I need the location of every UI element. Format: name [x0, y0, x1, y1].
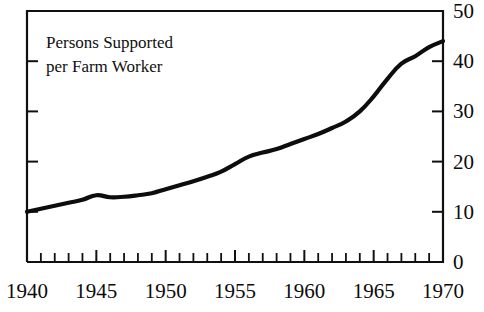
y-tick-label: 0 — [453, 250, 464, 274]
y-tick-label: 50 — [453, 0, 474, 23]
x-tick-label: 1940 — [6, 279, 48, 303]
x-tick-label: 1960 — [283, 279, 325, 303]
chart-title-line-2: per Farm Worker — [46, 57, 163, 76]
chart-title-line-1: Persons Supported — [46, 33, 174, 52]
y-tick-label: 10 — [453, 200, 474, 224]
x-axis-ticks — [27, 250, 443, 262]
chart-container: 1940194519501955196019651970 01020304050… — [0, 0, 484, 312]
y-axis-ticks-right — [432, 61, 443, 212]
y-tick-label: 30 — [453, 99, 474, 123]
x-tick-label: 1955 — [214, 279, 256, 303]
x-axis-tick-labels: 1940194519501955196019651970 — [6, 279, 464, 303]
x-tick-label: 1950 — [145, 279, 187, 303]
y-axis-ticks-left — [27, 61, 38, 212]
x-tick-label: 1970 — [422, 279, 464, 303]
line-chart: 1940194519501955196019651970 01020304050… — [0, 0, 484, 312]
y-tick-label: 20 — [453, 150, 474, 174]
x-tick-label: 1965 — [353, 279, 395, 303]
y-axis-tick-labels: 01020304050 — [453, 0, 474, 274]
y-tick-label: 40 — [453, 49, 474, 73]
x-tick-label: 1945 — [75, 279, 117, 303]
